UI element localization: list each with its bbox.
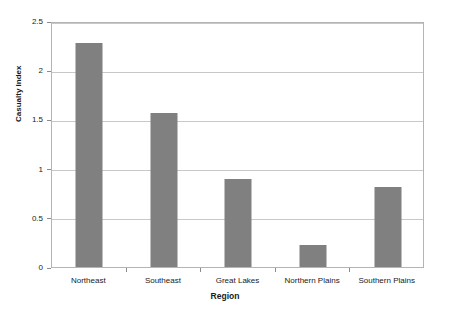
- y-tick-mark: [47, 218, 51, 219]
- x-tick-mark: [126, 268, 127, 272]
- x-tick-label: Great Lakes: [198, 276, 278, 286]
- bar: [374, 187, 401, 267]
- x-tick-label: Southeast: [123, 276, 203, 286]
- x-tick-mark: [200, 268, 201, 272]
- x-tick-label: Northeast: [48, 276, 128, 286]
- bars-layer: [52, 23, 423, 267]
- bar-chart: 00.511.522.5 Casualty Index NortheastSou…: [0, 0, 450, 313]
- y-tick-label: 2: [3, 67, 43, 75]
- bar-slot: [350, 23, 425, 267]
- bar-slot: [52, 23, 127, 267]
- y-tick-label: 0.5: [3, 215, 43, 223]
- y-tick-mark: [47, 268, 51, 269]
- y-tick-label: 1: [3, 166, 43, 174]
- y-tick-mark: [47, 22, 51, 23]
- bar: [300, 245, 327, 267]
- bar-slot: [276, 23, 351, 267]
- y-tick-mark: [47, 71, 51, 72]
- x-tick-mark: [349, 268, 350, 272]
- y-tick-label: 2.5: [3, 18, 43, 26]
- bar-slot: [127, 23, 202, 267]
- y-axis-title: Casualty Index: [14, 110, 24, 122]
- y-tick-mark: [47, 169, 51, 170]
- bar-slot: [201, 23, 276, 267]
- y-tick-label: 0: [3, 264, 43, 272]
- x-tick-mark: [275, 268, 276, 272]
- y-tick-mark: [47, 120, 51, 121]
- x-axis-title: Region: [0, 291, 450, 301]
- x-tick-label: Southern Plains: [347, 276, 427, 286]
- bar: [150, 113, 177, 267]
- x-tick-label: Northern Plains: [272, 276, 352, 286]
- bar: [225, 179, 252, 267]
- plot-area: [51, 22, 424, 268]
- bar: [76, 43, 103, 267]
